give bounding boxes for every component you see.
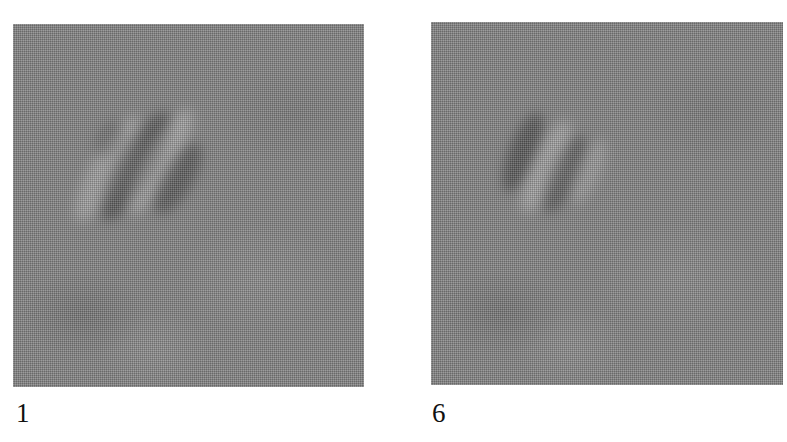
figure-panel-6 bbox=[431, 22, 783, 385]
noise-texture bbox=[431, 22, 783, 385]
figure-panel-1 bbox=[13, 24, 364, 387]
panel-label-6: 6 bbox=[432, 400, 446, 427]
panel-label-1: 1 bbox=[16, 400, 30, 427]
noise-texture bbox=[13, 24, 364, 387]
